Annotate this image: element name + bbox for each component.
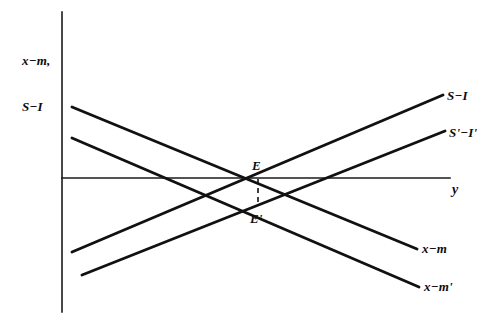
curve-label-s-minus-i: S−I: [447, 88, 468, 103]
y-axis-label-line-1: x−m,: [22, 53, 51, 68]
curve-s-prime-minus-i-prime: [82, 131, 445, 275]
chart-canvas: [0, 0, 502, 323]
y-axis-label-line-2: S−I: [22, 99, 51, 114]
economics-figure: x−m, S−I y S−I S'−I' x−m x−m' E E': [0, 0, 502, 323]
y-axis-label: x−m, S−I: [22, 22, 51, 145]
curve-label-x-minus-m-prime: x−m': [424, 279, 453, 294]
curve-label-s-prime-minus-i-prime: S'−I': [449, 125, 477, 140]
curve-label-x-minus-m: x−m: [422, 241, 447, 256]
curve-s-minus-i: [72, 95, 443, 252]
point-label-e-prime: E': [250, 211, 263, 226]
x-axis-label: y: [452, 182, 458, 199]
curve-x-minus-m-prime: [72, 138, 419, 287]
point-label-e: E: [252, 158, 261, 173]
